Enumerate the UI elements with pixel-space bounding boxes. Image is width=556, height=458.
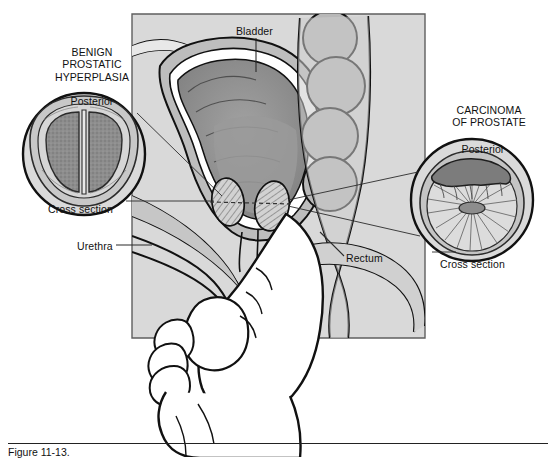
bph-inset-title: BENIGN PROSTATIC HYPERPLASIA [36,46,148,83]
rectum-label: Rectum [346,252,383,264]
bladder-label: Bladder [236,25,273,37]
figure-caption: Figure 11-13. [8,446,70,458]
carcinoma-posterior-label: Posterior [440,143,526,155]
carcinoma-inset [411,139,533,261]
caption-divider [8,443,548,444]
carcinoma-cross-section-caption: Cross section [440,258,505,270]
carcinoma-inset-title: CARCINOMA OF PROSTATE [430,104,548,129]
bph-cross-section-caption: Cross section [48,203,113,215]
bph-inset [23,93,145,215]
urethra-label: Urethra [77,240,113,252]
bph-posterior-label: Posterior [50,95,134,107]
